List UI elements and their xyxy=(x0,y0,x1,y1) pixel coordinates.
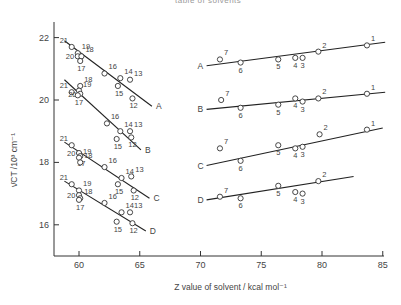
data-point xyxy=(69,182,74,187)
data-point xyxy=(276,102,281,107)
point-label: 20 xyxy=(66,52,74,61)
point-label: 18 xyxy=(85,45,93,54)
point-label: 1 xyxy=(371,119,375,128)
series-label-b: B xyxy=(198,104,204,114)
data-point xyxy=(276,183,281,188)
point-label: 4 xyxy=(293,101,297,110)
point-label: 16 xyxy=(109,62,117,71)
point-label: 21 xyxy=(60,134,68,143)
plot-area: 60657075808516182022AA211920181716141513… xyxy=(0,0,401,305)
y-tick-label: 22 xyxy=(39,33,49,43)
data-point xyxy=(364,91,369,96)
data-point xyxy=(102,200,107,205)
point-label: 2 xyxy=(322,170,326,179)
point-label: 6 xyxy=(239,164,243,173)
point-label: 13 xyxy=(134,201,142,210)
series-label-c: C xyxy=(198,161,204,171)
data-point xyxy=(316,179,321,184)
point-label: 7 xyxy=(225,89,229,98)
point-label: 19 xyxy=(83,80,91,89)
point-label: 18 xyxy=(84,151,92,160)
y-axis-label: ν̄CT /10³ cm⁻¹ xyxy=(9,133,19,187)
point-label: 20 xyxy=(67,149,75,158)
data-point xyxy=(127,210,132,215)
point-label: 16 xyxy=(111,112,119,121)
point-label: 15 xyxy=(114,142,122,151)
y-tick-label: 16 xyxy=(39,220,49,230)
point-label: 3 xyxy=(301,105,305,114)
point-label: 6 xyxy=(239,111,243,120)
x-tick-label: 70 xyxy=(195,260,205,270)
point-label: 21 xyxy=(60,81,68,90)
point-label: 21 xyxy=(60,36,68,45)
data-point xyxy=(69,44,74,49)
point-label: 6 xyxy=(239,66,243,75)
data-point xyxy=(364,127,369,132)
point-label: 17 xyxy=(76,203,84,212)
x-tick-label: 60 xyxy=(74,260,84,270)
point-label: 13 xyxy=(134,120,142,129)
point-label: 12 xyxy=(129,101,137,110)
point-label: 16 xyxy=(109,156,117,165)
data-point xyxy=(300,144,305,149)
point-label: 2 xyxy=(322,41,326,50)
point-label: 13 xyxy=(135,165,143,174)
data-point xyxy=(293,189,298,194)
data-point xyxy=(127,129,132,134)
point-label: 3 xyxy=(301,61,305,70)
point-label: 4 xyxy=(293,151,297,160)
data-point xyxy=(76,197,81,202)
data-point xyxy=(75,93,80,98)
data-point xyxy=(364,43,369,48)
data-point xyxy=(115,182,120,187)
data-point xyxy=(300,191,305,196)
data-point xyxy=(317,132,322,137)
point-label: 1 xyxy=(371,34,375,43)
point-label: 14 xyxy=(124,67,132,76)
y-tick-label: 18 xyxy=(39,157,49,167)
point-label: 20 xyxy=(67,191,75,200)
chart: table of solvents 60657075808516182022AA… xyxy=(0,0,401,305)
point-label: 3 xyxy=(301,150,305,159)
data-point xyxy=(276,143,281,148)
series-label-a: A xyxy=(198,61,204,71)
series-label-c: C xyxy=(153,193,159,203)
point-label: 6 xyxy=(239,201,243,210)
point-label: 4 xyxy=(293,195,297,204)
data-point xyxy=(238,105,243,110)
x-tick-label: 75 xyxy=(256,260,266,270)
data-point xyxy=(300,99,305,104)
data-point xyxy=(119,210,124,215)
data-point xyxy=(238,60,243,65)
series-label-a: A xyxy=(156,101,162,111)
x-tick-label: 65 xyxy=(135,260,145,270)
series-label-d: D xyxy=(150,226,156,236)
data-point xyxy=(217,146,222,151)
point-label: 15 xyxy=(115,89,123,98)
point-label: 4 xyxy=(293,61,297,70)
data-point xyxy=(118,129,123,134)
y-tick-label: 20 xyxy=(39,95,49,105)
point-label: 7 xyxy=(224,137,228,146)
point-label: 21 xyxy=(60,173,68,182)
data-point xyxy=(102,164,107,169)
data-point xyxy=(118,76,123,81)
data-point xyxy=(276,57,281,62)
data-point xyxy=(102,71,107,76)
data-point xyxy=(217,194,222,199)
data-point xyxy=(316,96,321,101)
point-label: 5 xyxy=(276,189,280,198)
point-label: 15 xyxy=(114,225,122,234)
point-label: 1 xyxy=(371,83,375,92)
data-point xyxy=(131,188,136,193)
point-label: 12 xyxy=(128,140,136,149)
data-point xyxy=(316,49,321,54)
point-label: 17 xyxy=(77,64,85,73)
point-label: 3 xyxy=(301,197,305,206)
point-label: 5 xyxy=(276,108,280,117)
point-label: 2 xyxy=(322,87,326,96)
data-point xyxy=(293,146,298,151)
data-point xyxy=(293,96,298,101)
point-label: 13 xyxy=(134,69,142,78)
data-point xyxy=(129,174,134,179)
